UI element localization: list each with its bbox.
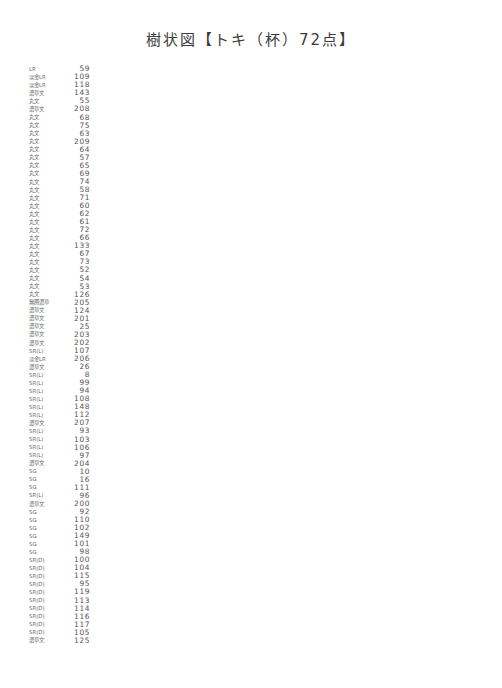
leaf-label: SG bbox=[29, 509, 37, 517]
leaf-label: LR bbox=[29, 66, 36, 74]
leaf-label: 丸文 bbox=[29, 114, 39, 122]
leaf-label: SR(D) bbox=[29, 629, 45, 637]
leaf-label: 濃草文 bbox=[29, 315, 44, 323]
leaf-label: SR(L) bbox=[29, 492, 43, 500]
leaf-label: 丸文 bbox=[29, 251, 39, 259]
leaf-label: 丸文 bbox=[29, 130, 39, 138]
leaf-id: 53 bbox=[56, 283, 90, 291]
leaf-label: 丸文 bbox=[29, 291, 39, 299]
leaf-label: 淡金LR bbox=[29, 356, 46, 364]
leaf-id: 54 bbox=[56, 275, 90, 283]
leaf-label: 濃草文 bbox=[29, 90, 44, 98]
leaf-id: 106 bbox=[56, 444, 90, 452]
leaf-id: 68 bbox=[56, 114, 90, 122]
leaf-label: SR(L) bbox=[29, 444, 43, 452]
leaf-label: 濃草文 bbox=[29, 323, 44, 331]
leaf-id: 52 bbox=[56, 266, 90, 274]
leaf-id: 103 bbox=[56, 436, 90, 444]
leaf-label: 丸文 bbox=[29, 122, 39, 130]
leaf-label: SR(D) bbox=[29, 621, 45, 629]
leaf-label: 丸文 bbox=[29, 138, 39, 146]
leaf-label: 丸文 bbox=[29, 170, 39, 178]
leaf-label: SG bbox=[29, 517, 37, 525]
leaf-label: 濃草文 bbox=[29, 501, 44, 509]
leaf-label: 濃草文 bbox=[29, 637, 44, 645]
leaf-label: 丸文 bbox=[29, 195, 39, 203]
leaf-id: 119 bbox=[56, 588, 90, 596]
leaf-label: SR(D) bbox=[29, 565, 45, 573]
leaf-label: SR(D) bbox=[29, 557, 45, 565]
leaf-label: 丸文 bbox=[29, 179, 39, 187]
leaf-label: SR(L) bbox=[29, 380, 43, 388]
leaf-label: 濃草文 bbox=[29, 331, 44, 339]
leaf-label: SR(L) bbox=[29, 436, 43, 444]
leaf-label: 濃草文 bbox=[29, 307, 44, 315]
leaf-label: 丸文 bbox=[29, 243, 39, 251]
leaf-label: 丸文 bbox=[29, 187, 39, 195]
leaf-label: SR(L) bbox=[29, 404, 43, 412]
leaf-label: SR(L) bbox=[29, 452, 43, 460]
leaf-label: SR(L) bbox=[29, 396, 43, 404]
leaf-label: 丸文 bbox=[29, 283, 39, 291]
leaf-label: 丸文 bbox=[29, 146, 39, 154]
leaf-label: 丸文 bbox=[29, 227, 39, 235]
leaf-label: 丸文 bbox=[29, 235, 39, 243]
chart-title: 樹状図【トキ（杯）72点】 bbox=[0, 28, 502, 49]
leaf-id: 208 bbox=[56, 105, 90, 113]
leaf-label: SG bbox=[29, 484, 37, 492]
leaf-label: 濃草文 bbox=[29, 460, 44, 468]
leaf-label: SR(D) bbox=[29, 589, 45, 597]
leaf-label: 濃草文 bbox=[29, 364, 44, 372]
leaf-label: 濃草文 bbox=[29, 420, 44, 428]
leaf-label: SR(D) bbox=[29, 597, 45, 605]
leaf-label: SR(D) bbox=[29, 581, 45, 589]
leaf-label: 無圏濃草 bbox=[29, 299, 49, 307]
leaf-label: SR(D) bbox=[29, 605, 45, 613]
leaf-label: SR(L) bbox=[29, 428, 43, 436]
leaf-label: 濃草文 bbox=[29, 340, 44, 348]
leaf-label: 丸文 bbox=[29, 275, 39, 283]
leaf-label: 丸文 bbox=[29, 211, 39, 219]
leaf-label: SR(D) bbox=[29, 613, 45, 621]
leaf-label: 淡金LR bbox=[29, 82, 46, 90]
leaf-label: 丸文 bbox=[29, 98, 39, 106]
leaf-label: SR(L) bbox=[29, 388, 43, 396]
leaf-id: 75 bbox=[56, 122, 90, 130]
leaf-id: 113 bbox=[56, 597, 90, 605]
leaf-label: 丸文 bbox=[29, 203, 39, 211]
leaf-label: 丸文 bbox=[29, 154, 39, 162]
leaf-id: 93 bbox=[56, 427, 90, 435]
leaf-label: SG bbox=[29, 533, 37, 541]
leaf-label: SG bbox=[29, 468, 37, 476]
leaf-label: SR(L) bbox=[29, 372, 43, 380]
leaf-label: 淡金LR bbox=[29, 74, 46, 82]
leaf-label: 濃草文 bbox=[29, 106, 44, 114]
leaf-label: 丸文 bbox=[29, 259, 39, 267]
leaf-id: 125 bbox=[56, 637, 90, 645]
leaf-label: 丸文 bbox=[29, 267, 39, 275]
leaf-label: SG bbox=[29, 541, 37, 549]
leaf-label: 丸文 bbox=[29, 162, 39, 170]
leaf-label: SG bbox=[29, 476, 37, 484]
leaf-label: SR(L) bbox=[29, 412, 43, 420]
leaf-label: SR(L) bbox=[29, 348, 43, 356]
leaf-label: SG bbox=[29, 525, 37, 533]
leaf-label: SR(D) bbox=[29, 573, 45, 581]
leaf-label: SG bbox=[29, 549, 37, 557]
leaf-label: 丸文 bbox=[29, 219, 39, 227]
leaf-id: 114 bbox=[56, 605, 90, 613]
dendrogram-chart: 樹状図【トキ（杯）72点】 LR59淡金LR109淡金LR118濃草文143丸文… bbox=[0, 0, 502, 688]
